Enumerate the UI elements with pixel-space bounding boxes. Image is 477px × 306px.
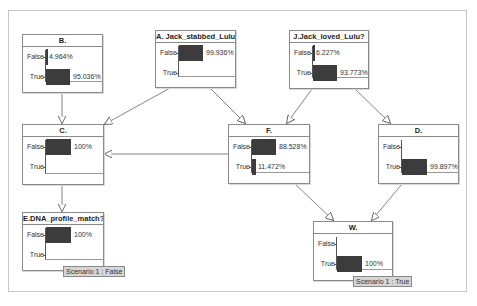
state-label: True xyxy=(378,157,400,177)
state-row-false: False 6.227% xyxy=(290,43,368,63)
probability-bar xyxy=(46,49,48,65)
state-row-true: True 99.897% xyxy=(379,157,458,177)
state-label: False xyxy=(289,43,311,63)
node-j-jack-loved-lulu[interactable]: J.Jack_loved_Lulu? False 6.227% True 93.… xyxy=(289,30,369,89)
probability-bar xyxy=(313,45,315,61)
probability-bar xyxy=(313,65,337,81)
node-title: F. xyxy=(229,125,309,137)
state-label: False xyxy=(22,137,44,157)
state-label: True xyxy=(22,245,44,265)
state-row-false: False 88.528% xyxy=(229,137,309,157)
node-e-dna-profile-match[interactable]: E.DNA_profile_match? False 100% True xyxy=(22,212,104,271)
probability-bar xyxy=(252,139,276,155)
probability-value: 95.036% xyxy=(73,67,101,87)
state-row-true: True xyxy=(156,63,235,83)
state-label: False xyxy=(22,47,44,67)
probability-bar xyxy=(337,256,362,272)
edge-a-f xyxy=(210,88,245,123)
scenario-tag-w: Scenario 1 : True xyxy=(353,276,412,287)
probability-bar xyxy=(46,69,70,85)
node-title: B. xyxy=(23,35,102,47)
scenario-tag-e: Scenario 1 : False xyxy=(63,266,125,277)
state-label: True xyxy=(313,254,335,274)
state-row-false: False xyxy=(379,137,458,157)
probability-bar xyxy=(46,139,71,155)
node-title: D. xyxy=(379,125,458,137)
probability-value: 6.227% xyxy=(316,43,340,63)
node-title: E.DNA_profile_match? xyxy=(23,213,103,225)
probability-value: 4.964% xyxy=(49,47,73,67)
edge-j-f xyxy=(287,89,312,123)
state-label: True xyxy=(22,67,44,87)
edge-d-w xyxy=(372,184,402,220)
state-label: False xyxy=(228,137,250,157)
state-row-true: True 11.472% xyxy=(229,157,309,177)
node-title: C. xyxy=(23,125,103,137)
probability-bar xyxy=(179,45,203,61)
node-f[interactable]: F. False 88.528% True 11.472% xyxy=(228,124,310,184)
probability-value: 100% xyxy=(74,225,92,245)
state-label: False xyxy=(22,225,44,245)
node-title: J.Jack_loved_Lulu? xyxy=(290,31,368,43)
state-label: True xyxy=(155,63,177,83)
node-title: W. xyxy=(314,222,392,234)
probability-bar xyxy=(46,227,71,243)
edge-f-w xyxy=(295,184,333,220)
probability-value: 99.897% xyxy=(430,157,458,177)
state-label: False xyxy=(378,137,400,157)
probability-value: 100% xyxy=(365,254,383,274)
node-b[interactable]: B. False 4.964% True 95.036% xyxy=(22,34,103,93)
probability-bar xyxy=(402,159,427,175)
state-label: True xyxy=(228,157,250,177)
state-row-false: False xyxy=(314,234,392,254)
probability-value: 99.936% xyxy=(206,43,234,63)
state-row-false: False 100% xyxy=(23,137,103,157)
probability-bar xyxy=(252,159,256,175)
edge-j-d xyxy=(355,89,390,123)
state-label: True xyxy=(22,157,44,177)
node-a-jack-stabbed-lulu[interactable]: A. Jack_stabbed_Lulu? False 99.936% True xyxy=(155,30,236,88)
state-label: True xyxy=(289,63,311,83)
state-row-false: False 4.964% xyxy=(23,47,102,67)
probability-value: 93.773% xyxy=(340,63,368,83)
node-c[interactable]: C. False 100% True xyxy=(22,124,104,185)
state-label: False xyxy=(313,234,335,254)
state-row-false: False 100% xyxy=(23,225,103,245)
probability-value: 11.472% xyxy=(258,157,285,177)
state-row-false: False 99.936% xyxy=(156,43,235,63)
state-label: False xyxy=(155,43,177,63)
node-title: A. Jack_stabbed_Lulu? xyxy=(156,31,235,43)
state-row-true: True 93.773% xyxy=(290,63,368,83)
edge-a-c xyxy=(105,88,170,124)
state-row-true: True xyxy=(23,245,103,265)
state-row-true: True 95.036% xyxy=(23,67,102,87)
node-w[interactable]: W. False True 100% xyxy=(313,221,393,281)
node-d[interactable]: D. False True 99.897% xyxy=(378,124,459,184)
probability-value: 100% xyxy=(74,137,92,157)
probability-value: 88.528% xyxy=(279,137,307,157)
state-row-true: True xyxy=(23,157,103,177)
state-row-true: True 100% xyxy=(314,254,392,274)
